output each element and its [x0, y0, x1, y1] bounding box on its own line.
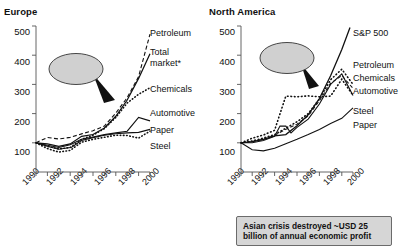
- series-line-steel: [241, 74, 353, 143]
- footnote-text: Asian crisis destroyed ~USD 25 billion o…: [243, 221, 371, 241]
- series-line-automotive: [241, 76, 353, 143]
- series-line-paper: [241, 108, 353, 151]
- callout-asian-crisis: [49, 54, 115, 104]
- footnote-callout-box: Asian crisis destroyed ~USD 25 billion o…: [236, 216, 392, 246]
- series-line-petroleum: [241, 79, 353, 143]
- chart-panel-north-america: North America 500 400 300 200 100 1990 1…: [205, 0, 410, 249]
- chart-panel-europe: Europe 500 400 300 200 100 1990 1992 199…: [0, 0, 205, 249]
- axis-lines: [32, 26, 150, 176]
- plot-area-north-america: [205, 0, 410, 249]
- series-line-chemicals: [241, 69, 353, 143]
- plot-area-europe: [0, 0, 205, 249]
- callout-bubble: [260, 43, 314, 74]
- callout-asian-crisis: [260, 43, 319, 90]
- callout-bubble: [49, 54, 103, 85]
